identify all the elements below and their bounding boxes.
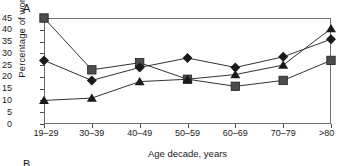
y-tick-label: 20 bbox=[0, 72, 12, 81]
y-tick-label: 0 bbox=[0, 120, 12, 129]
y-tick-label: 45 bbox=[0, 14, 12, 23]
x-tick-label: 50–59 bbox=[175, 129, 200, 138]
y-tick-label: 10 bbox=[0, 96, 12, 105]
y-tick-label: 25 bbox=[0, 61, 12, 70]
x-tick-label: 19–29 bbox=[33, 129, 58, 138]
x-tick-label: 40–49 bbox=[127, 129, 152, 138]
x-tick-label: 70–79 bbox=[271, 129, 296, 138]
y-tick-label: 30 bbox=[0, 49, 12, 58]
y-tick-label: 15 bbox=[0, 84, 12, 93]
line-chart: Percentage of women 051015202530354045 1… bbox=[0, 0, 345, 166]
y-tick-label: 5 bbox=[0, 108, 12, 117]
y-tick-label: 40 bbox=[0, 25, 12, 34]
y-axis-label: Percentage of women bbox=[16, 0, 27, 96]
y-tick-label: 35 bbox=[0, 37, 12, 46]
plot-area bbox=[44, 18, 331, 124]
x-tick-label: >80 bbox=[319, 129, 334, 138]
x-tick-label: 60–69 bbox=[223, 129, 248, 138]
x-tick-label: 30–39 bbox=[79, 129, 104, 138]
x-axis-label: Age decade, years bbox=[44, 148, 331, 159]
